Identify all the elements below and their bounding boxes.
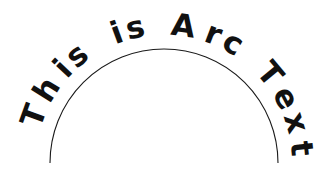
arc-text-artwork: ThisisArcText xyxy=(0,0,330,178)
arc-glyph-8: A xyxy=(169,6,198,45)
image-canvas: ThisisArcText xyxy=(0,0,330,178)
